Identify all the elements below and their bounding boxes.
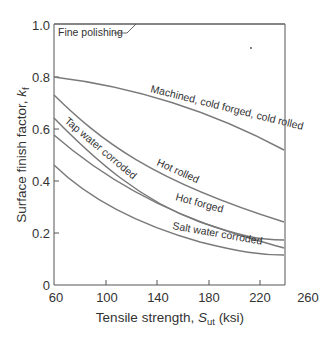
svg-text:140: 140 <box>147 290 169 305</box>
svg-text:0.8: 0.8 <box>32 70 50 85</box>
label-hot-rolled: Hot rolled <box>155 156 201 185</box>
chart: 0 0.2 0.4 0.6 0.8 1.0 60 100 140 180 220… <box>0 0 332 339</box>
x-axis-title: Tensile strength, Sut (ksi) <box>96 310 244 327</box>
svg-text:0.2: 0.2 <box>32 226 50 241</box>
y-axis-ticks <box>54 77 59 233</box>
label-salt-water: Salt water corroded <box>172 219 264 247</box>
label-machined: Machined, cold forged, cold rolled <box>150 82 305 132</box>
label-hot-forged: Hot forged <box>174 190 225 214</box>
svg-text:1.0: 1.0 <box>32 18 50 33</box>
plot-frame <box>54 24 285 285</box>
svg-text:220: 220 <box>249 290 271 305</box>
y-axis-title: Surface finish factor, kf <box>14 87 31 223</box>
x-axis-ticks <box>106 280 260 285</box>
svg-text:180: 180 <box>198 290 220 305</box>
svg-text:0.6: 0.6 <box>32 122 50 137</box>
x-axis-tick-labels: 60 100 140 180 220 260 <box>49 290 319 305</box>
stray-mark <box>250 47 252 49</box>
svg-text:60: 60 <box>49 290 63 305</box>
y-axis-tick-labels: 0 0.2 0.4 0.6 0.8 1.0 <box>32 18 50 293</box>
svg-text:0.4: 0.4 <box>32 174 50 189</box>
label-fine-polishing: Fine polishing <box>58 26 123 38</box>
svg-text:100: 100 <box>96 290 118 305</box>
svg-text:260: 260 <box>297 290 319 305</box>
